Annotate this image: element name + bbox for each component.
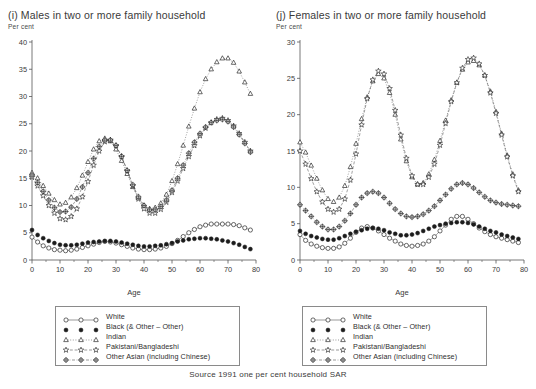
legend-item-label: Other Asian (including Chinese) — [348, 352, 457, 361]
svg-text:80: 80 — [252, 265, 260, 274]
svg-text:20: 20 — [19, 147, 27, 156]
y-axis-unit-males: Per cent — [8, 23, 34, 30]
legend-item-label: Other Asian (including Chinese) — [101, 352, 210, 361]
legend-item-label: White — [101, 312, 125, 321]
legend-item-black-other-other[interactable]: Black (& Other – Other) — [61, 321, 233, 331]
svg-text:0: 0 — [23, 256, 27, 265]
svg-text:20: 20 — [352, 265, 360, 274]
svg-text:70: 70 — [492, 265, 500, 274]
svg-text:70: 70 — [224, 265, 232, 274]
filled-circle-icon — [308, 321, 348, 331]
svg-text:40: 40 — [408, 265, 416, 274]
legend-item-white[interactable]: White — [61, 311, 233, 321]
svg-text:60: 60 — [196, 265, 204, 274]
svg-text:30: 30 — [19, 92, 27, 101]
legend-item-white[interactable]: White — [308, 311, 480, 321]
figure-panels: (i) Males in two or more family househol… — [0, 0, 536, 389]
open-circle-icon — [308, 311, 348, 321]
source-note: Source 1991 one per cent household SAR — [0, 370, 536, 379]
crossed-circle-icon — [61, 351, 101, 361]
legend-item-label: Indian — [348, 332, 373, 341]
page-title-females: (j) Females in two or more family househ… — [276, 9, 486, 21]
svg-text:10: 10 — [56, 265, 64, 274]
svg-text:35: 35 — [19, 65, 27, 74]
legend-item-label: Black (& Other – Other) — [101, 322, 183, 331]
legend-item-pakistani-bangladeshi[interactable]: Pakistani/Bangladeshi — [61, 341, 233, 351]
svg-text:30: 30 — [287, 38, 295, 47]
y-axis-unit-females: Per cent — [276, 23, 302, 30]
svg-text:50: 50 — [168, 265, 176, 274]
legend-item-label: White — [348, 312, 372, 321]
open-triangle-icon — [61, 331, 101, 341]
legend-item-indian[interactable]: Indian — [61, 331, 233, 341]
svg-text:20: 20 — [287, 110, 295, 119]
open-circle-icon — [61, 311, 101, 321]
svg-text:30: 30 — [380, 265, 388, 274]
legend-item-pakistani-bangladeshi[interactable]: Pakistani/Bangladeshi — [308, 341, 480, 351]
legend-item-label: Indian — [101, 332, 126, 341]
svg-text:80: 80 — [520, 265, 528, 274]
open-triangle-icon — [308, 331, 348, 341]
legend-item-label: Pakistani/Bangladeshi — [101, 342, 179, 351]
svg-text:10: 10 — [324, 265, 332, 274]
x-axis-label-females: Age — [274, 288, 530, 297]
panel-males: (i) Males in two or more family househol… — [0, 0, 268, 365]
svg-text:40: 40 — [140, 265, 148, 274]
legend-item-indian[interactable]: Indian — [308, 331, 480, 341]
legend-item-other-asian-including-chinese[interactable]: Other Asian (including Chinese) — [308, 351, 480, 361]
svg-text:25: 25 — [19, 119, 27, 128]
svg-text:15: 15 — [19, 174, 27, 183]
svg-text:15: 15 — [287, 147, 295, 156]
svg-text:5: 5 — [23, 228, 27, 237]
svg-text:50: 50 — [436, 265, 444, 274]
svg-text:40: 40 — [19, 38, 27, 47]
svg-text:5: 5 — [291, 219, 295, 228]
panel-females: (j) Females in two or more family househ… — [268, 0, 536, 365]
svg-text:10: 10 — [19, 201, 27, 210]
svg-text:25: 25 — [287, 74, 295, 83]
legend-item-black-other-other[interactable]: Black (& Other – Other) — [308, 321, 480, 331]
legend-females: WhiteBlack (& Other – Other)IndianPakist… — [302, 306, 487, 366]
plot-area-males: 051015202530354001020304050607080 — [6, 34, 262, 282]
crossed-circle-icon — [308, 351, 348, 361]
legend-males: WhiteBlack (& Other – Other)IndianPakist… — [55, 306, 240, 366]
svg-text:30: 30 — [112, 265, 120, 274]
svg-text:0: 0 — [30, 265, 34, 274]
svg-text:60: 60 — [464, 265, 472, 274]
svg-text:0: 0 — [298, 265, 302, 274]
plot-area-females: 05101520253001020304050607080 — [274, 34, 530, 282]
svg-text:0: 0 — [291, 256, 295, 265]
filled-circle-icon — [61, 321, 101, 331]
legend-item-label: Pakistani/Bangladeshi — [348, 342, 426, 351]
svg-text:20: 20 — [84, 265, 92, 274]
legend-item-label: Black (& Other – Other) — [348, 322, 430, 331]
svg-text:10: 10 — [287, 183, 295, 192]
legend-item-other-asian-including-chinese[interactable]: Other Asian (including Chinese) — [61, 351, 233, 361]
x-axis-label-males: Age — [6, 288, 262, 297]
page-title-males: (i) Males in two or more family househol… — [8, 9, 206, 21]
open-star-icon — [61, 341, 101, 351]
open-star-icon — [308, 341, 348, 351]
